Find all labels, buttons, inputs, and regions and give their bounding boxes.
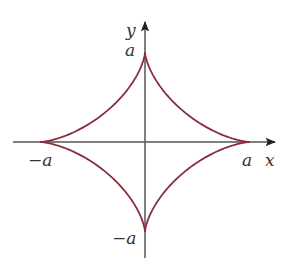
y-negative-tick-label: −a — [112, 228, 136, 248]
x-axis-label: x — [265, 150, 275, 170]
y-axis-label: y — [125, 20, 136, 40]
x-positive-tick-label: a — [242, 150, 252, 170]
y-positive-tick-label: a — [125, 40, 135, 60]
astroid-diagram: y a −a a x −a — [0, 0, 292, 265]
x-negative-tick-label: −a — [28, 150, 52, 170]
